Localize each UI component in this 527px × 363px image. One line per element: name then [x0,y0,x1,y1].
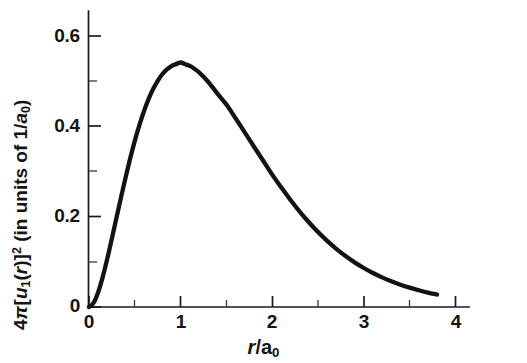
y-axis-title-function-subscript: 1 [19,280,33,287]
y-axis-title-function: u [10,287,31,299]
y-axis-title-units-close: ) [10,100,31,106]
x-axis-title-unit: a [261,336,272,358]
y-axis-title-unit-symbol: a [10,113,31,124]
y-axis-title-units-open: (in units of 1/ [10,124,31,248]
y-axis-title-bracket-close: ] [10,254,31,260]
y-axis-title-argument: r [10,267,31,274]
figure-container: 0.6 0.4 0.2 0 0 1 2 3 4 r/a0 4π[u1(r)]2 … [0,0,527,363]
y-tick-label-0.6: 0.6 [36,25,80,47]
y-axis-title-coefficient: 4 [10,319,31,330]
x-axis-title-unit-subscript: 0 [272,345,279,360]
y-axis-title-unit-subscript: 0 [19,106,33,113]
y-tick-label-0.2: 0.2 [36,205,80,227]
y-axis-title-exponent: 2 [10,247,24,254]
x-tick-label-4: 4 [441,311,471,333]
y-axis-title: 4π[u1(r)]2 (in units of 1/a0) [10,100,33,330]
x-tick-label-1: 1 [166,311,196,333]
x-tick-label-0: 0 [74,311,104,333]
y-axis-title-bracket-open: [ [10,299,31,305]
y-tick-label-0.4: 0.4 [36,115,80,137]
x-axis-title: r/a0 [0,336,527,360]
y-axis-title-paren-close: ) [10,260,31,266]
radial-distribution-curve [89,62,437,307]
x-tick-label-2: 2 [257,311,287,333]
y-axis-title-paren-open: ( [10,274,31,280]
y-axis-title-pi-symbol: π [10,305,31,319]
x-tick-label-3: 3 [349,311,379,333]
